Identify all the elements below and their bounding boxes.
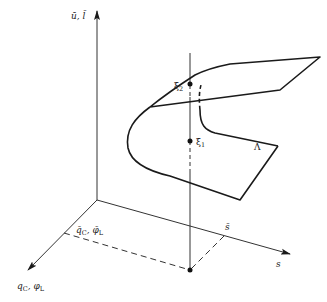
s-bar-projection [190,236,224,270]
fold-surface-diagram: ū, l̄ qC, φL s q̄C, φ̄L s̄ ξ̄2 ξ̄1 Λ [0,0,327,302]
s-bar-label: s̄ [225,222,230,232]
horizontal-axis-label: s [276,259,281,269]
depth-axis-label: qC, φL [17,281,45,293]
q-bar-label: q̄C, φ̄L [76,225,104,237]
surface-label: Λ [253,142,261,152]
xi-1-label: ξ̄1 [196,137,205,149]
projection-lines [64,233,224,270]
xi-2-point [188,82,193,87]
horizontal-axis [97,200,290,254]
vertical-axis-label: ū, l̄ [71,10,87,21]
xi-1-point [188,139,193,144]
xi-2-label: ξ̄2 [174,81,183,93]
q-bar-projection [64,233,190,270]
ground-point [188,268,193,273]
surface [127,57,320,200]
